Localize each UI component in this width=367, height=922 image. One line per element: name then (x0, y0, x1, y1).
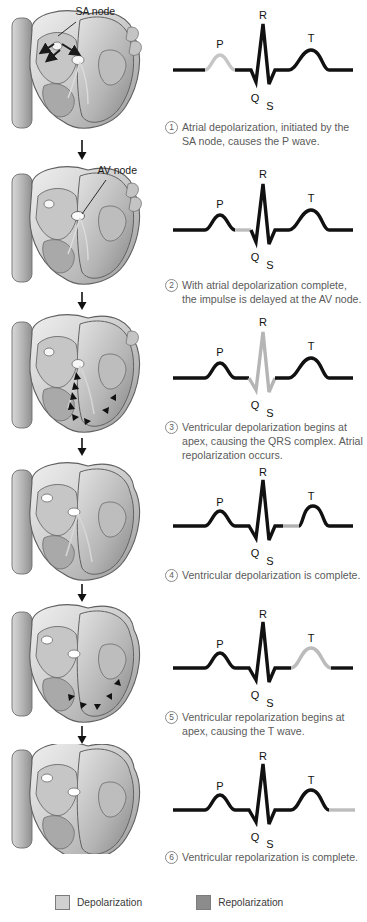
step-row-4: P R Q S T 4 Ventricular depolarization i… (0, 460, 367, 602)
heart-column-1: SA node (0, 0, 163, 160)
wave-label-t: T (308, 192, 315, 204)
step-number-3: 3 (165, 421, 178, 434)
caption-text-6: Ventricular repolarization is complete. (182, 850, 363, 864)
legend-label-repolarization: Repolarization (218, 897, 283, 908)
wave-label-q: Q (251, 251, 260, 263)
heart-column-4 (0, 460, 163, 602)
ecg-trace-4: P R Q S T (163, 460, 363, 566)
wave-label-r: R (259, 168, 267, 180)
caption-text-3: Ventricular depolarization begins at ape… (182, 420, 363, 462)
heart-svg-4 (2, 460, 162, 584)
heart-column-3 (0, 310, 163, 460)
legend: Depolarization Repolarization (55, 895, 283, 910)
wave-label-t: T (308, 32, 315, 44)
wave-label-p: P (216, 198, 223, 210)
wave-label-s: S (266, 259, 273, 271)
wave-label-p: P (216, 780, 223, 792)
flow-arrow-5 (75, 726, 89, 744)
caption-4: 4 Ventricular depolarization is complete… (163, 568, 363, 582)
segment-t-wave (275, 358, 353, 378)
heart-illustration-1: SA node (2, 0, 162, 140)
segment-full-complex (173, 764, 329, 824)
caption-text-1: Atrial depolarization, initiated by the … (182, 120, 363, 148)
wave-label-p: P (216, 346, 223, 358)
ecg-trace-1: P R Q S T (163, 0, 363, 118)
wave-label-s: S (266, 407, 273, 418)
wave-label-q: Q (251, 831, 260, 843)
step-number-1: 1 (165, 121, 178, 134)
segment-t-wave (299, 506, 353, 526)
heart-svg-1 (2, 0, 162, 140)
cardiac-conduction-figure: SA node P R Q S T 1 Atrial depolariza (0, 0, 367, 922)
segment-t-wave (289, 210, 353, 230)
heart-illustration-2: AV node (2, 160, 162, 292)
repolarization-swatch (196, 895, 211, 910)
caption-5: 5 Ventricular repolarization begins at a… (163, 710, 363, 738)
caption-text-4: Ventricular depolarization is complete. (182, 568, 363, 582)
step-row-3: P R Q S T 3 Ventricular depolarization b… (0, 310, 367, 460)
step-number-6: 6 (165, 851, 178, 864)
heart-column-6 (0, 744, 163, 864)
caption-text-5: Ventricular repolarization begins at ape… (182, 710, 363, 738)
step-number-5: 5 (165, 711, 178, 724)
ecg-trace-3: P R Q S T (163, 310, 363, 418)
wave-label-q: Q (251, 399, 260, 411)
av-node-label: AV node (98, 164, 138, 176)
segment-t-wave (291, 648, 331, 668)
wave-label-q: Q (251, 547, 260, 559)
step-row-5: P R Q S T 5 Ventricular repolarization b… (0, 602, 367, 744)
sa-node-marker (52, 42, 62, 50)
step-row-1: SA node P R Q S T 1 Atrial depolariza (0, 0, 367, 160)
ecg-column-3: P R Q S T 3 Ventricular depolarization b… (163, 310, 367, 460)
heart-svg-6 (2, 744, 162, 854)
segment-p-qrs (173, 480, 283, 540)
caption-3: 3 Ventricular depolarization begins at a… (163, 420, 363, 462)
step-number-2: 2 (165, 279, 178, 292)
caption-text-2: With atrial depolarization complete, the… (182, 278, 363, 306)
wave-label-s: S (266, 555, 273, 566)
ecg-trace-6: P R Q S T (163, 744, 363, 848)
heart-illustration-3 (2, 310, 162, 438)
wave-label-r: R (259, 316, 267, 328)
step-row-6: P R Q S T 6 Ventricular repolarization i… (0, 744, 367, 864)
flow-arrow-3 (75, 438, 89, 456)
heart-svg-5 (2, 602, 162, 726)
wave-label-r: R (259, 466, 267, 478)
segment-p-qrs (173, 622, 291, 682)
step-number-4: 4 (165, 569, 178, 582)
ecg-trace-5: P R Q S T (163, 602, 363, 708)
ecg-trace-2: P R Q S T (163, 160, 363, 276)
heart-svg-2 (2, 160, 162, 292)
wave-label-t: T (308, 490, 315, 502)
segment-p-wave (173, 363, 249, 378)
wave-label-s: S (266, 100, 273, 112)
wave-label-p: P (216, 496, 223, 508)
ecg-column-4: P R Q S T 4 Ventricular depolarization i… (163, 460, 367, 602)
segment-t-wave (289, 50, 353, 70)
wave-label-q: Q (251, 689, 260, 701)
ecg-column-5: P R Q S T 5 Ventricular repolarization b… (163, 602, 367, 744)
wave-label-p: P (216, 38, 223, 50)
flow-arrow-4 (75, 584, 89, 602)
heart-illustration-5 (2, 602, 162, 726)
legend-item-repolarization: Repolarization (196, 895, 283, 910)
heart-illustration-6 (2, 744, 162, 854)
wave-label-r: R (259, 750, 267, 762)
segment-qrs (235, 24, 289, 84)
wave-label-q: Q (251, 92, 260, 104)
heart-svg-3 (2, 310, 162, 438)
legend-item-depolarization: Depolarization (55, 895, 142, 910)
flow-arrow-2 (75, 292, 89, 310)
ecg-column-1: P R Q S T 1 Atrial depolarization, initi… (163, 0, 367, 160)
depolarization-swatch (55, 895, 70, 910)
wave-label-t: T (308, 340, 315, 352)
ecg-column-2: P R Q S T 2 With atrial depolarization c… (163, 160, 367, 310)
segment-p-wave (205, 55, 235, 70)
wave-label-s: S (266, 838, 273, 848)
segment-qrs (249, 332, 275, 392)
step-row-2: AV node P R Q S T 2 With atrial depol (0, 160, 367, 310)
heart-column-2: AV node (0, 160, 163, 310)
wave-label-r: R (259, 608, 267, 620)
wave-label-s: S (266, 697, 273, 708)
wave-label-t: T (308, 774, 315, 786)
